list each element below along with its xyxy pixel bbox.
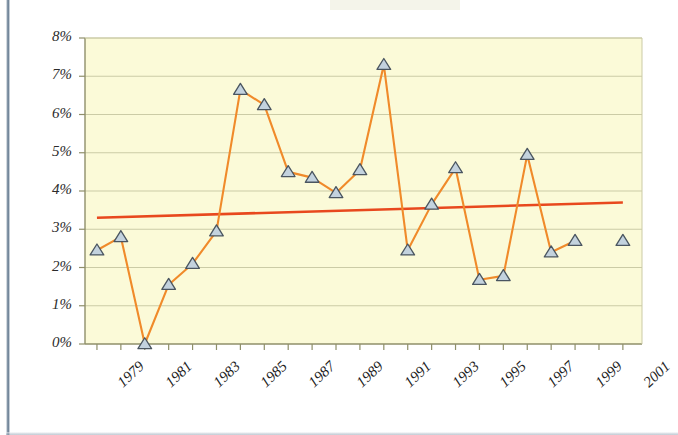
y-axis-tick-label: 3%	[20, 219, 72, 236]
y-axis-tick-label: 5%	[20, 143, 72, 160]
y-axis-tick-label: 2%	[20, 258, 72, 275]
y-axis-tick-label: 7%	[20, 66, 72, 83]
trend-line	[97, 202, 623, 217]
data-series-line	[97, 65, 575, 344]
y-axis-tick-label: 4%	[20, 181, 72, 198]
chart-container: 8%7%6%5%4%3%2%1%0% 197919811983198519871…	[0, 0, 678, 435]
y-axis-tick-label: 8%	[20, 28, 72, 45]
x-axis-ticks	[97, 344, 623, 350]
y-axis-tick-label: 1%	[20, 296, 72, 313]
y-axis-tick-label: 6%	[20, 105, 72, 122]
y-axis-tick-label: 0%	[20, 334, 72, 351]
y-axis-ticks	[79, 38, 85, 344]
